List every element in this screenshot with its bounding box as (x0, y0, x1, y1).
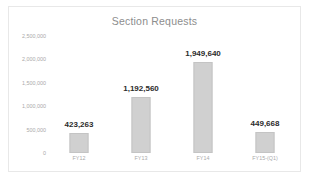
plot-area: 423,263 1,192,560 1,949,640 449,668 (48, 36, 296, 153)
y-axis-tick-label: 500,000 (8, 127, 46, 133)
bar[interactable] (194, 62, 213, 153)
x-axis: FY12 FY13 FY14 FY15-(Q1) (48, 155, 296, 167)
bar-group: 1,192,560 (110, 36, 172, 153)
x-axis-tick-label: FY13 (110, 155, 172, 161)
bar-group: 449,668 (234, 36, 296, 153)
x-axis-tick-label: FY14 (172, 155, 234, 161)
bar-value-label: 1,192,560 (123, 84, 159, 93)
y-axis-tick-label: 1,500,000 (8, 80, 46, 86)
y-axis: 2,500,000 2,000,000 1,500,000 1,000,000 … (8, 0, 46, 184)
chart-title: Section Requests (9, 15, 300, 27)
bar[interactable] (132, 97, 151, 153)
bar-group: 423,263 (48, 36, 110, 153)
y-axis-tick-label: 0 (8, 150, 46, 156)
x-axis-tick-label: FY12 (48, 155, 110, 161)
y-axis-tick-label: 1,000,000 (8, 103, 46, 109)
bar-value-label: 1,949,640 (185, 49, 221, 58)
y-axis-tick-label: 2,000,000 (8, 56, 46, 62)
y-axis-tick-label: 2,500,000 (8, 33, 46, 39)
bar[interactable] (256, 132, 275, 153)
bar-group: 1,949,640 (172, 36, 234, 153)
bar[interactable] (70, 133, 89, 153)
x-axis-tick-label: FY15-(Q1) (234, 155, 296, 161)
bar-value-label: 449,668 (251, 119, 280, 128)
bar-value-label: 423,263 (65, 120, 94, 129)
